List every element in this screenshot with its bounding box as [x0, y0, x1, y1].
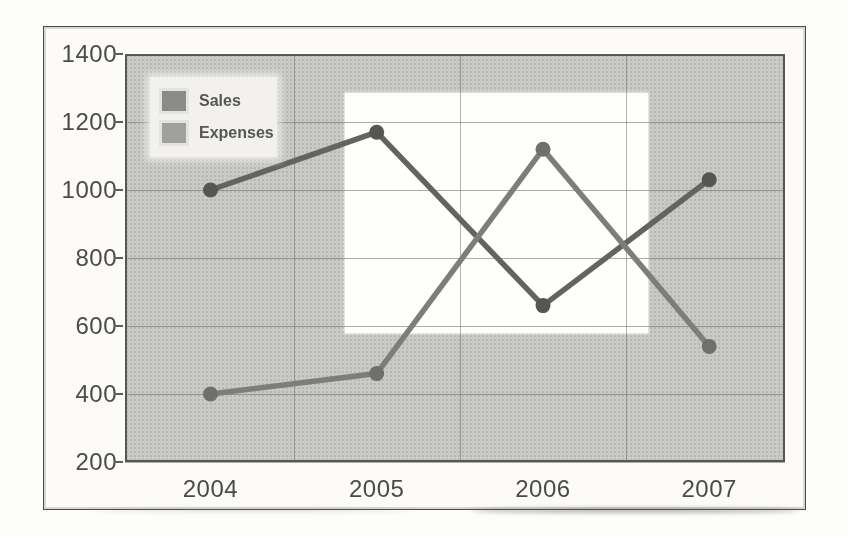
- sales-line: [211, 132, 710, 305]
- y-axis-tick-mark: [114, 325, 123, 327]
- y-axis-tick-mark: [114, 121, 123, 123]
- y-axis-labels: 140012001000800600400200: [20, 54, 117, 462]
- sales-point-2004: [203, 183, 218, 198]
- expenses-point-2006: [536, 142, 551, 157]
- sales-point-2006: [536, 298, 551, 313]
- x-tick-label: 2007: [654, 474, 764, 504]
- scanned-page: 140012001000800600400200 SalesExpenses 2…: [0, 0, 848, 535]
- y-tick-label: 800: [20, 243, 117, 273]
- legend: SalesExpenses: [150, 77, 277, 157]
- x-axis-labels: 2004200520062007: [125, 474, 785, 504]
- y-tick-label: 1200: [20, 107, 117, 137]
- legend-item: Sales: [159, 86, 277, 116]
- expenses-point-2004: [203, 387, 218, 402]
- x-tick-label: 2004: [155, 474, 265, 504]
- expenses-line: [211, 149, 710, 394]
- sales-point-2005: [369, 125, 384, 140]
- expenses-point-2007: [702, 339, 717, 354]
- plot-area: SalesExpenses: [125, 54, 785, 462]
- x-tick-label: 2005: [322, 474, 432, 504]
- y-axis-tick-mark: [114, 393, 123, 395]
- y-tick-label: 200: [20, 447, 117, 477]
- sales-point-2007: [702, 172, 717, 187]
- y-tick-label: 600: [20, 311, 117, 341]
- scan-shadow-artifact: [470, 508, 800, 513]
- legend-item: Expenses: [159, 118, 277, 148]
- scan-shadow-artifact-left: [90, 509, 410, 512]
- y-tick-label: 1000: [20, 175, 117, 205]
- legend-swatch-icon: [159, 88, 189, 114]
- legend-swatch-icon: [159, 120, 189, 146]
- y-axis-tick-mark: [114, 257, 123, 259]
- y-tick-label: 400: [20, 379, 117, 409]
- legend-label: Expenses: [199, 124, 274, 142]
- y-axis-tick-mark: [114, 189, 123, 191]
- y-axis-tick-mark: [114, 53, 123, 55]
- legend-label: Sales: [199, 92, 241, 110]
- expenses-point-2005: [369, 366, 384, 381]
- y-axis-tick-mark: [114, 461, 123, 463]
- y-tick-label: 1400: [20, 39, 117, 69]
- x-tick-label: 2006: [488, 474, 598, 504]
